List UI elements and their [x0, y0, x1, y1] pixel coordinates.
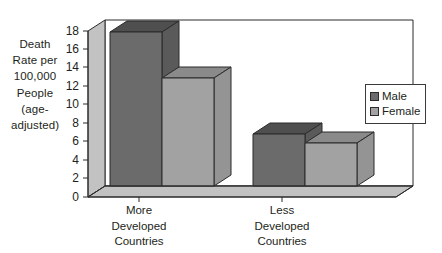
legend-item-male: Male [370, 89, 420, 104]
x-axis-label-line: Countries [79, 234, 199, 250]
bar-female-more-developed [162, 67, 231, 186]
x-axis-label-line: More [79, 203, 199, 219]
legend: Male Female [365, 84, 426, 124]
bar-side-face [214, 67, 231, 186]
x-axis-label-more-developed: More Developed Countries [79, 203, 199, 250]
y-tick-label: 18 [57, 25, 79, 37]
bar-chart: Death Rate per 100,000 People (age- adju… [0, 0, 442, 253]
y-tick-label: 16 [57, 43, 79, 55]
legend-swatch-female-icon [370, 107, 379, 116]
x-axis-label-line: Developed [79, 219, 199, 235]
y-tick-label: 0 [57, 191, 79, 203]
x-axis-ticks [139, 197, 282, 202]
bar-front-face [305, 143, 357, 186]
left-wall [88, 20, 105, 197]
bar-front-face [110, 32, 162, 186]
legend-label-female: Female [382, 105, 420, 118]
y-tick-label: 2 [57, 172, 79, 184]
x-axis-label-line: Less [222, 203, 342, 219]
x-axis-label-line: Countries [222, 234, 342, 250]
floor [88, 186, 413, 197]
y-tick-label: 10 [57, 98, 79, 110]
x-axis-label-line: Developed [222, 219, 342, 235]
bar-front-face [253, 134, 305, 186]
y-tick-label: 8 [57, 117, 79, 129]
legend-item-female: Female [370, 104, 420, 119]
y-tick-label: 12 [57, 80, 79, 92]
bar-female-less-developed [305, 132, 374, 186]
bar-front-face [162, 78, 214, 186]
legend-swatch-male-icon [370, 92, 379, 101]
x-axis-label-less-developed: Less Developed Countries [222, 203, 342, 250]
y-tick-label: 6 [57, 135, 79, 147]
y-tick-label: 4 [57, 154, 79, 166]
y-axis-ticks [83, 31, 88, 197]
legend-label-male: Male [382, 90, 407, 103]
y-tick-label: 14 [57, 61, 79, 73]
